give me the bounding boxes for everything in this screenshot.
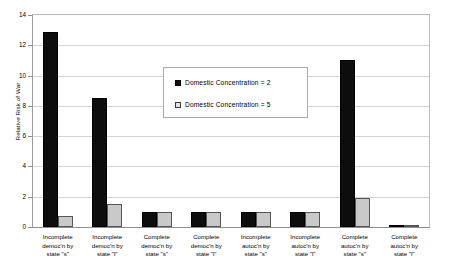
bar-group [132, 15, 182, 227]
y-axis-tick-label: 0 [6, 223, 26, 230]
x-axis-label-line: state "s" [132, 250, 182, 259]
bar-series-0 [340, 60, 355, 227]
y-axis-tick-label: 4 [6, 163, 26, 170]
legend-label-series-1: Domestic Concentration = 5 [185, 101, 270, 108]
legend-swatch-icon-series-1 [175, 102, 181, 108]
x-axis-category-label: Incompletedemoc'n bystate "s" [33, 233, 83, 259]
x-axis-label-line: democ'n by [83, 242, 133, 251]
bar-series-0 [43, 32, 58, 227]
y-axis-tick-mark [28, 76, 32, 77]
x-axis-label-line: Complete [182, 233, 232, 242]
bar-group [281, 15, 331, 227]
y-axis-tick-mark [28, 197, 32, 198]
y-axis-tick-mark [28, 106, 32, 107]
x-axis-label-line: Incomplete [33, 233, 83, 242]
y-axis-tick-label: 6 [6, 133, 26, 140]
x-axis-label-line: Complete [380, 233, 430, 242]
bar-chart: Relative Risk of War 02468101214 Incompl… [0, 0, 451, 276]
bar-group [380, 15, 430, 227]
x-axis-label-line: Complete [330, 233, 380, 242]
y-axis-tick-label: 12 [6, 42, 26, 49]
x-axis-category-label: Completeautoc'n bystate "s" [330, 233, 380, 259]
x-axis-category-label: Completedemoc'n bystate "l" [182, 233, 232, 259]
bar-series-0 [241, 212, 256, 227]
bar-series-1 [404, 225, 419, 227]
bar-group [231, 15, 281, 227]
x-axis-label-line: state "l" [182, 250, 232, 259]
x-axis-category-label: Incompleteautoc'n bystate "s" [231, 233, 281, 259]
y-axis-tick-mark [28, 15, 32, 16]
y-axis-tick-mark [28, 136, 32, 137]
bar-series-1 [305, 212, 320, 227]
bar-series-1 [206, 212, 221, 227]
y-axis-tick-label: 14 [6, 11, 26, 18]
x-axis-label-line: state "l" [281, 250, 331, 259]
y-axis-tick-mark [28, 45, 32, 46]
bar-series-0 [92, 98, 107, 227]
bar-series-1 [256, 212, 271, 227]
bar-series-0 [142, 212, 157, 227]
x-axis-label-line: state "l" [83, 250, 133, 259]
x-axis-category-label: Completedemoc'n bystate "s" [132, 233, 182, 259]
y-axis-tick-mark [28, 227, 32, 228]
x-axis-labels: Incompletedemoc'n bystate "s"Incompleted… [33, 233, 429, 275]
legend-entry-series-1: Domestic Concentration = 5 [175, 101, 270, 108]
legend-swatch-icon-series-0 [175, 80, 181, 86]
x-axis-label-line: democ'n by [182, 242, 232, 251]
x-axis-category-label: Completeautoc'n bystate "l" [380, 233, 430, 259]
x-axis-label-line: Incomplete [231, 233, 281, 242]
bar-group [33, 15, 83, 227]
x-axis-label-line: Complete [132, 233, 182, 242]
x-axis-label-line: autoc'n by [330, 242, 380, 251]
x-axis-label-line: state "s" [33, 250, 83, 259]
bar-group [182, 15, 232, 227]
bar-group [330, 15, 380, 227]
y-axis-tick-mark [28, 166, 32, 167]
bar-series-0 [389, 225, 404, 227]
chart-legend: Domestic Concentration = 2 Domestic Conc… [163, 67, 308, 118]
bar-series-1 [157, 212, 172, 227]
bar-group [83, 15, 133, 227]
x-axis-label-line: Incomplete [83, 233, 133, 242]
y-axis-tick-label: 2 [6, 193, 26, 200]
legend-entry-series-0: Domestic Concentration = 2 [175, 79, 270, 86]
x-axis-label-line: state "l" [380, 250, 430, 259]
bar-series-1 [107, 204, 122, 227]
x-axis-label-line: autoc'n by [281, 242, 331, 251]
x-axis-category-label: Incompletedemoc'n bystate "l" [83, 233, 133, 259]
y-axis-tick-label: 8 [6, 102, 26, 109]
bar-series-1 [58, 216, 73, 227]
y-axis-title: Relative Risk of War [14, 47, 21, 177]
x-axis-label-line: autoc'n by [231, 242, 281, 251]
bar-series-0 [290, 212, 305, 227]
legend-label-series-0: Domestic Concentration = 2 [185, 79, 270, 86]
bar-series-1 [355, 198, 370, 227]
x-axis-label-line: democ'n by [33, 242, 83, 251]
x-axis-label-line: Incomplete [281, 233, 331, 242]
x-axis-label-line: state "s" [330, 250, 380, 259]
y-axis-tick-label: 10 [6, 72, 26, 79]
x-axis-label-line: autoc'n by [380, 242, 430, 251]
bar-series-0 [191, 212, 206, 227]
x-axis-label-line: state "s" [231, 250, 281, 259]
bars-layer [33, 15, 429, 227]
x-axis-label-line: democ'n by [132, 242, 182, 251]
x-axis-category-label: Incompleteautoc'n bystate "l" [281, 233, 331, 259]
